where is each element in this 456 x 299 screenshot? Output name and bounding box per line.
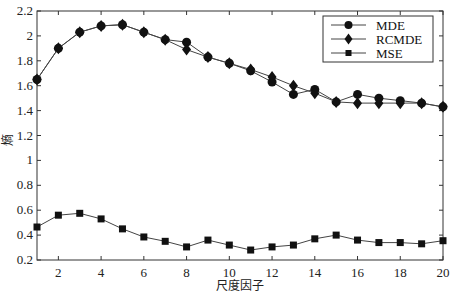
square-marker (269, 243, 276, 250)
x-tick-label: 16 (351, 265, 365, 280)
y-tick-label: 2 (27, 28, 34, 43)
square-marker (346, 50, 352, 56)
square-marker (311, 235, 318, 242)
square-marker (140, 233, 147, 240)
square-marker (119, 225, 126, 232)
square-marker (98, 215, 105, 222)
legend-label: MSE (376, 46, 403, 61)
square-marker (226, 242, 233, 249)
square-marker (162, 238, 169, 245)
y-tick-label: 0.6 (17, 202, 34, 217)
square-marker (375, 239, 382, 246)
x-tick-label: 10 (223, 265, 236, 280)
y-axis-title: 熵 (0, 134, 15, 146)
y-tick-label: 1.6 (17, 78, 34, 93)
square-marker (34, 224, 41, 231)
y-tick-label: 2.2 (17, 3, 33, 18)
square-marker (183, 243, 190, 250)
legend-label: MDE (376, 18, 405, 33)
square-marker (247, 247, 254, 254)
legend: MDERCMDEMSE (323, 16, 433, 62)
x-tick-label: 2 (55, 265, 62, 280)
circle-marker (345, 21, 353, 29)
square-marker (440, 237, 447, 244)
y-tick-label: 0.2 (17, 252, 33, 267)
y-tick-label: 0.4 (17, 227, 34, 242)
y-tick-label: 1 (27, 152, 34, 167)
x-tick-label: 12 (266, 265, 279, 280)
square-marker (354, 237, 361, 244)
legend-label: RCMDE (376, 32, 422, 47)
x-tick-label: 4 (98, 265, 105, 280)
x-tick-label: 14 (308, 265, 322, 280)
y-tick-label: 1.4 (17, 103, 34, 118)
square-marker (204, 237, 211, 244)
x-tick-label: 18 (394, 265, 407, 280)
x-axis-title: 尺度因子 (216, 278, 264, 293)
square-marker (290, 242, 297, 249)
line-chart: 24681012141618200.20.40.60.811.21.41.61.… (0, 0, 456, 299)
y-tick-label: 1.2 (17, 128, 33, 143)
x-tick-label: 6 (141, 265, 148, 280)
square-marker (397, 239, 404, 246)
y-tick-label: 1.8 (17, 53, 33, 68)
x-tick-label: 8 (183, 265, 190, 280)
x-tick-label: 20 (437, 265, 450, 280)
square-marker (55, 212, 62, 219)
square-marker (333, 232, 340, 239)
square-marker (418, 240, 425, 247)
y-tick-label: 0.8 (17, 177, 33, 192)
square-marker (76, 210, 83, 217)
